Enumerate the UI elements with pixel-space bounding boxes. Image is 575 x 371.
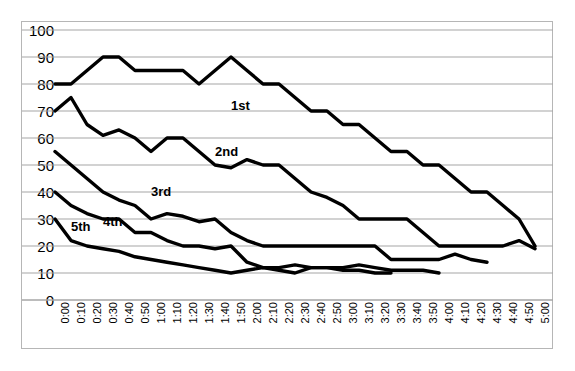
x-tick-label: 4:20 (476, 302, 487, 323)
x-tick-label: 2:50 (332, 302, 343, 323)
x-tick-label: 0:30 (108, 302, 119, 323)
x-tick-label: 0:10 (76, 302, 87, 323)
x-tick-label: 2:40 (316, 302, 327, 323)
series-line-1st (55, 57, 535, 246)
x-tick-label: 3:40 (412, 302, 423, 323)
x-tick-label: 1:00 (156, 302, 167, 323)
line-chart: 1009080706050403020100 0:000:100:200:300… (0, 0, 575, 371)
x-tick-label: 1:40 (220, 302, 231, 323)
series-label-4th: 4th (103, 215, 123, 228)
series-label-1st: 1st (231, 99, 250, 112)
x-tick-label: 4:10 (460, 302, 471, 323)
x-tick-label: 1:30 (204, 302, 215, 323)
series-label-2nd: 2nd (215, 145, 238, 158)
x-tick-label: 2:00 (252, 302, 263, 323)
x-tick-label: 1:50 (236, 302, 247, 323)
x-tick-label: 0:40 (124, 302, 135, 323)
grid-and-series-layer (55, 30, 535, 300)
x-tick-label: 4:00 (444, 302, 455, 323)
x-tick-label: 3:30 (396, 302, 407, 323)
x-axis-tick-labels: 0:000:100:200:300:400:501:001:101:201:30… (55, 302, 535, 348)
x-tick-label: 2:10 (268, 302, 279, 323)
x-tick-label: 4:50 (524, 302, 535, 323)
x-tick-label: 3:20 (380, 302, 391, 323)
series-label-5th: 5th (71, 220, 91, 233)
x-tick-label: 3:50 (428, 302, 439, 323)
x-tick-label: 0:00 (60, 302, 71, 323)
x-tick-label: 3:10 (364, 302, 375, 323)
x-tick-label: 1:10 (172, 302, 183, 323)
x-tick-label: 4:40 (508, 302, 519, 323)
x-tick-label: 0:20 (92, 302, 103, 323)
plot-area (55, 30, 535, 300)
x-tick-label: 1:20 (188, 302, 199, 323)
x-tick-label: 4:30 (492, 302, 503, 323)
x-tick-label: 0:50 (140, 302, 151, 323)
x-tick-label: 3:00 (348, 302, 359, 323)
series-label-3rd: 3rd (151, 185, 171, 198)
x-tick-label: 5:00 (540, 302, 551, 323)
x-tick-label: 2:20 (284, 302, 295, 323)
series-line-4th (55, 192, 439, 273)
x-tick-label: 2:30 (300, 302, 311, 323)
